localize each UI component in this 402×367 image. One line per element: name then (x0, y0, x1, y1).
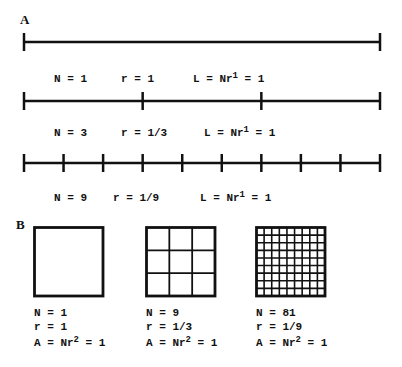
row1-n-label: N = 1 (54, 73, 87, 85)
row2-r-label: r = 1/3 (121, 127, 167, 139)
square3-a-formula: A = Nr2 = 1 (256, 337, 327, 349)
formula-text: A = Nr (256, 337, 296, 349)
formula-text: = 1 (79, 337, 105, 349)
row3-l-formula: L = Nr1 = 1 (200, 192, 271, 204)
formula-text: A = Nr (146, 337, 186, 349)
line-segment-row-2 (24, 92, 380, 110)
row1-r-label: r = 1 (121, 73, 154, 85)
square-grid-2 (147, 228, 216, 297)
formula-text: = 1 (301, 337, 327, 349)
row3-r-label: r = 1/9 (113, 192, 159, 204)
formula-text: = 1 (249, 127, 275, 139)
square3-n-label: N = 81 (256, 307, 296, 319)
square1-a-formula: A = Nr2 = 1 (34, 337, 105, 349)
square-grids (35, 228, 326, 297)
line-segment-row-3 (24, 154, 380, 172)
line-segment-row-1 (24, 33, 380, 51)
formula-text: = 1 (245, 192, 271, 204)
square-grid-1 (35, 228, 104, 297)
row2-l-formula: L = Nr1 = 1 (204, 127, 275, 139)
square1-n-label: N = 1 (34, 307, 67, 319)
formula-text: A = Nr (34, 337, 74, 349)
square-grid-3 (257, 228, 326, 297)
formula-text: L = Nr (200, 192, 240, 204)
square3-r-label: r = 1/9 (256, 321, 302, 333)
square2-r-label: r = 1/3 (146, 321, 192, 333)
row3-n-label: N = 9 (54, 192, 87, 204)
square1-r-label: r = 1 (34, 321, 67, 333)
square2-n-label: N = 9 (146, 307, 179, 319)
formula-text: = 1 (238, 73, 264, 85)
formula-text: L = Nr (204, 127, 244, 139)
row2-n-label: N = 3 (54, 127, 87, 139)
line-segments (24, 33, 380, 172)
row1-l-formula: L = Nr1 = 1 (193, 73, 264, 85)
formula-text: L = Nr (193, 73, 233, 85)
square2-a-formula: A = Nr2 = 1 (146, 337, 217, 349)
formula-text: = 1 (191, 337, 217, 349)
